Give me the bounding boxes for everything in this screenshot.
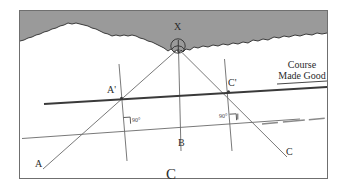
label-course-made-good-line1: Course [273,59,331,70]
label-course-made-good-line2: Made Good [273,70,331,81]
navigation-diagram-figure: X A' C' A B C 90° 90° Course Made Good C [0,0,347,196]
label-bearing-a: A [35,159,42,169]
label-bearing-b: B [178,138,185,148]
course-made-good-line [44,87,328,104]
label-fix-c-prime: C' [228,78,236,88]
label-angle-right: 90° [219,113,227,119]
label-fix-a-prime: A' [107,85,116,95]
label-landmark-x: X [174,22,181,32]
label-angle-left: 90° [132,117,140,123]
bearing-ray-a [43,49,178,169]
bearing-ray-b [179,49,182,151]
right-angle-marker-right [230,114,237,120]
course-label-underline [277,81,328,84]
perpendicular-line-c [225,59,233,151]
fix-point-c-prime [227,90,230,93]
figure-caption: C [166,167,176,182]
label-bearing-c: C [286,147,293,157]
right-angle-marker-left [124,117,131,124]
fix-point-a-prime [120,97,123,100]
perpendicular-line-a [119,64,127,161]
bearing-ray-c [179,49,288,157]
